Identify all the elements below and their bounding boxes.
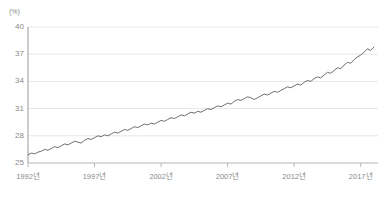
x-tick-label: 1992년	[16, 172, 40, 181]
line-chart: (%) 252831343740 1992년1997년2002년2007년201…	[0, 0, 388, 198]
x-tick-label: 2007년	[216, 172, 240, 181]
x-tick-label: 2002년	[149, 172, 173, 181]
x-tick-label: 1997년	[83, 172, 107, 181]
x-tick-label: 2012년	[282, 172, 306, 181]
x-tick-label: 2017년	[349, 172, 373, 181]
x-axis-labels: 1992년1997년2002년2007년2012년2017년	[0, 0, 388, 198]
